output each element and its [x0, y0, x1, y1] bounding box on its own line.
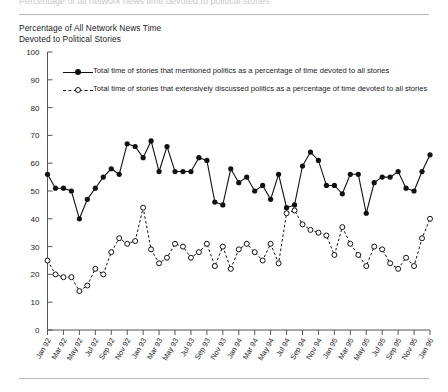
data-point: [420, 236, 425, 241]
data-point: [109, 250, 114, 255]
x-axis-tick-label: Nov 92: [113, 337, 133, 362]
data-point: [292, 208, 297, 213]
data-point: [268, 241, 273, 246]
data-point: [276, 261, 281, 266]
data-point: [404, 255, 409, 260]
data-point: [252, 188, 257, 193]
y-axis-tick-label: 50: [31, 187, 40, 196]
data-point: [380, 175, 385, 180]
data-point: [284, 211, 289, 216]
y-axis-tick-label: 10: [31, 298, 40, 307]
x-axis-tick-label: May 93: [160, 337, 180, 363]
data-point: [212, 200, 217, 205]
data-point: [69, 188, 74, 193]
data-point: [236, 247, 241, 252]
data-point: [236, 180, 241, 185]
data-point: [125, 241, 130, 246]
data-point: [173, 241, 178, 246]
data-point: [188, 255, 193, 260]
data-point: [204, 241, 209, 246]
data-point: [172, 169, 177, 174]
data-point: [212, 264, 217, 269]
data-point: [133, 239, 138, 244]
data-point: [85, 197, 90, 202]
y-axis-tick-label: 100: [26, 48, 40, 57]
data-point: [324, 233, 329, 238]
y-axis-tick-label: 40: [31, 215, 40, 224]
data-point: [101, 175, 106, 180]
data-point: [276, 172, 281, 177]
data-point: [77, 289, 82, 294]
data-point: [141, 205, 146, 210]
data-point: [157, 261, 162, 266]
data-point: [340, 225, 345, 230]
data-point: [180, 169, 185, 174]
data-point: [316, 158, 321, 163]
data-point: [411, 188, 416, 193]
data-point: [332, 183, 337, 188]
data-point: [45, 258, 50, 263]
x-axis-tick-label: Nov 95: [400, 337, 420, 362]
data-point: [427, 152, 432, 157]
data-point: [308, 149, 313, 154]
data-point: [188, 169, 193, 174]
data-point: [53, 272, 58, 277]
data-point: [412, 264, 417, 269]
data-point: [69, 275, 74, 280]
data-point: [164, 144, 169, 149]
data-point: [149, 247, 154, 252]
data-point: [403, 186, 408, 191]
data-point: [85, 283, 90, 288]
x-axis-tick-label: May 95: [352, 337, 372, 363]
data-point: [125, 141, 130, 146]
data-point: [109, 166, 114, 171]
data-point: [348, 241, 353, 246]
data-point: [260, 183, 265, 188]
x-axis-tick-label: Nov 93: [209, 337, 229, 362]
y-axis-tick-label: 70: [31, 131, 40, 140]
x-axis-tick-label: Jan 96: [416, 337, 435, 361]
data-point: [332, 252, 337, 257]
line-chart-svg: 0102030405060708090100Jan 92Mar 92May 92…: [0, 0, 448, 392]
data-point: [300, 222, 305, 227]
series-line-0: [48, 141, 431, 219]
data-point: [180, 244, 185, 249]
data-point: [196, 155, 201, 160]
data-point: [156, 169, 161, 174]
data-point: [77, 216, 82, 221]
data-point: [148, 138, 153, 143]
data-point: [117, 172, 122, 177]
data-point: [268, 197, 273, 202]
x-axis-tick-label: May 94: [256, 337, 276, 363]
data-point: [228, 166, 233, 171]
data-point: [45, 172, 50, 177]
data-point: [228, 266, 233, 271]
data-point: [364, 264, 369, 269]
data-point: [196, 250, 201, 255]
data-point: [428, 216, 433, 221]
y-axis-tick-label: 30: [31, 243, 40, 252]
data-point: [101, 272, 106, 277]
y-axis-tick-label: 80: [31, 104, 40, 113]
data-point: [61, 275, 66, 280]
data-point: [260, 258, 265, 263]
data-point: [252, 250, 257, 255]
data-point: [53, 186, 58, 191]
x-axis-tick-label: Nov 94: [304, 337, 324, 362]
data-point: [220, 202, 225, 207]
data-point: [133, 144, 138, 149]
data-point: [93, 266, 98, 271]
data-point: [340, 191, 345, 196]
data-point: [308, 227, 313, 232]
plot-area: 0102030405060708090100Jan 92Mar 92May 92…: [0, 0, 448, 392]
data-point: [324, 183, 329, 188]
data-point: [388, 175, 393, 180]
data-point: [292, 202, 297, 207]
data-point: [244, 241, 249, 246]
data-point: [396, 266, 401, 271]
x-axis-tick-label: May 92: [65, 337, 85, 363]
data-point: [364, 211, 369, 216]
data-point: [316, 230, 321, 235]
data-point: [117, 236, 122, 241]
y-axis-tick-label: 0: [35, 326, 40, 335]
